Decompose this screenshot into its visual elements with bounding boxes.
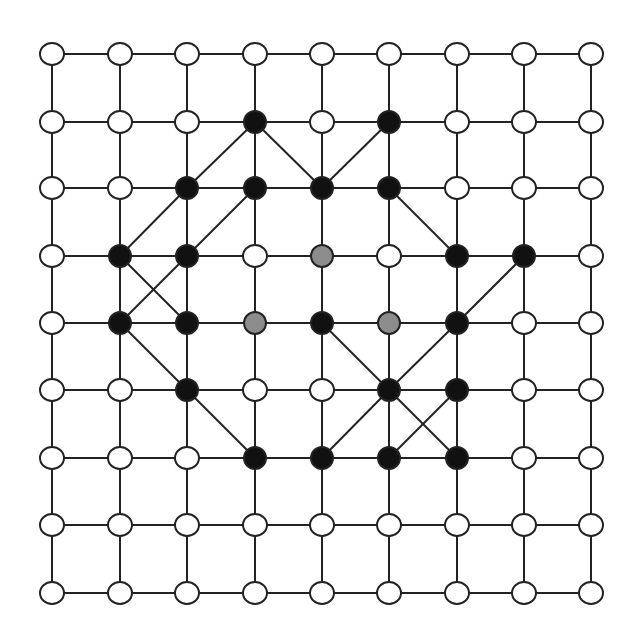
node-white	[243, 245, 267, 267]
node-white	[243, 379, 267, 401]
node-black	[311, 177, 333, 199]
node-white	[40, 447, 64, 469]
node-white	[579, 379, 603, 401]
node-white	[445, 111, 469, 133]
grid-graph-diagram	[0, 0, 638, 637]
node-black	[513, 245, 535, 267]
node-white	[40, 43, 64, 65]
node-black	[176, 177, 198, 199]
node-white	[40, 245, 64, 267]
node-white	[512, 177, 536, 199]
node-black	[378, 111, 400, 133]
node-black	[378, 379, 400, 401]
node-white	[108, 582, 132, 604]
node-white	[512, 379, 536, 401]
node-white	[175, 514, 199, 536]
node-white	[579, 514, 603, 536]
diagonal-edge	[187, 122, 255, 188]
node-black	[378, 447, 400, 469]
grid-nodes	[40, 43, 603, 604]
diagonal-edge	[389, 188, 457, 256]
diagonal-edge	[457, 256, 524, 323]
node-white	[243, 43, 267, 65]
diagonal-edge	[389, 323, 457, 390]
node-white	[377, 582, 401, 604]
node-white	[512, 43, 536, 65]
node-gray	[311, 245, 333, 267]
node-black	[446, 312, 468, 334]
node-white	[310, 43, 334, 65]
node-white	[243, 582, 267, 604]
node-black	[446, 379, 468, 401]
node-white	[40, 379, 64, 401]
node-black	[176, 379, 198, 401]
node-white	[445, 582, 469, 604]
node-black	[446, 245, 468, 267]
diagonal-edge	[187, 188, 255, 256]
node-white	[512, 111, 536, 133]
node-white	[310, 582, 334, 604]
node-black	[109, 312, 131, 334]
node-white	[377, 514, 401, 536]
node-white	[445, 514, 469, 536]
node-white	[40, 582, 64, 604]
node-white	[377, 245, 401, 267]
node-white	[175, 447, 199, 469]
diagonal-edge	[120, 188, 187, 256]
node-white	[445, 177, 469, 199]
node-white	[108, 447, 132, 469]
diagonal-edge	[187, 390, 255, 458]
node-white	[310, 514, 334, 536]
node-white	[108, 177, 132, 199]
node-white	[108, 514, 132, 536]
node-black	[109, 245, 131, 267]
diagonal-edge	[322, 122, 389, 188]
node-white	[579, 245, 603, 267]
node-white	[579, 43, 603, 65]
node-white	[310, 379, 334, 401]
node-black	[311, 447, 333, 469]
diagonal-edge	[255, 122, 322, 188]
node-white	[40, 514, 64, 536]
node-black	[378, 177, 400, 199]
node-white	[579, 177, 603, 199]
node-white	[40, 177, 64, 199]
diagonal-edge	[120, 323, 187, 390]
node-white	[175, 582, 199, 604]
node-white	[445, 43, 469, 65]
node-white	[377, 43, 401, 65]
node-white	[512, 447, 536, 469]
diagonal-edge	[322, 323, 389, 390]
node-white	[579, 312, 603, 334]
node-white	[108, 111, 132, 133]
node-white	[108, 43, 132, 65]
node-gray	[244, 312, 266, 334]
node-white	[243, 514, 267, 536]
node-white	[175, 111, 199, 133]
node-white	[175, 43, 199, 65]
node-white	[310, 111, 334, 133]
node-white	[512, 582, 536, 604]
node-black	[176, 312, 198, 334]
node-black	[176, 245, 198, 267]
node-black	[244, 447, 266, 469]
node-white	[512, 312, 536, 334]
node-white	[579, 111, 603, 133]
diagonal-edge	[322, 390, 389, 458]
node-black	[244, 177, 266, 199]
node-white	[40, 111, 64, 133]
node-white	[512, 514, 536, 536]
node-black	[244, 111, 266, 133]
node-black	[311, 312, 333, 334]
node-white	[40, 312, 64, 334]
node-gray	[378, 312, 400, 334]
node-white	[579, 582, 603, 604]
node-white	[108, 379, 132, 401]
node-white	[579, 447, 603, 469]
node-black	[446, 447, 468, 469]
